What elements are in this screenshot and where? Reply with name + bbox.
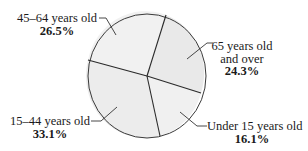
label-45-64: 45–64 years old 26.5% (17, 12, 97, 37)
label-65-over: 65 years old and over 24.3% (210, 40, 274, 78)
label-65-over-percent: 24.3% (210, 65, 274, 78)
label-45-64-percent: 26.5% (17, 25, 97, 38)
label-15-44-percent: 33.1% (10, 128, 90, 141)
label-under-15-text: Under 15 years old (207, 120, 297, 133)
label-15-44-text: 15–44 years old (10, 115, 90, 128)
label-under-15: Under 15 years old 16.1% (207, 120, 297, 145)
label-65-over-text-1: 65 years old (210, 40, 274, 53)
label-under-15-percent: 16.1% (207, 133, 297, 146)
label-45-64-text: 45–64 years old (17, 12, 97, 25)
label-15-44: 15–44 years old 33.1% (10, 115, 90, 140)
